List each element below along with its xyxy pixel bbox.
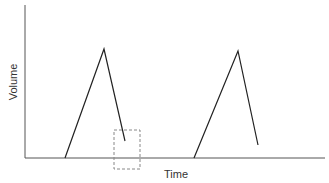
y-axis-label: Volume [7,64,19,101]
chart: Time Volume [0,0,329,183]
dashed-highlight-box [114,130,140,169]
pulse-2-line [194,51,258,158]
pulse-1-line [65,49,125,158]
x-axis-label: Time [164,168,188,180]
